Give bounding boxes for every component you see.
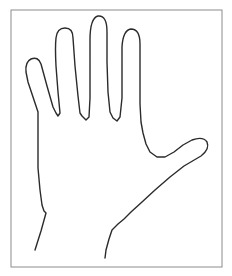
- drawing-canvas: [0, 0, 232, 276]
- hand-drawing-svg: [0, 0, 232, 276]
- border-frame: [11, 10, 222, 267]
